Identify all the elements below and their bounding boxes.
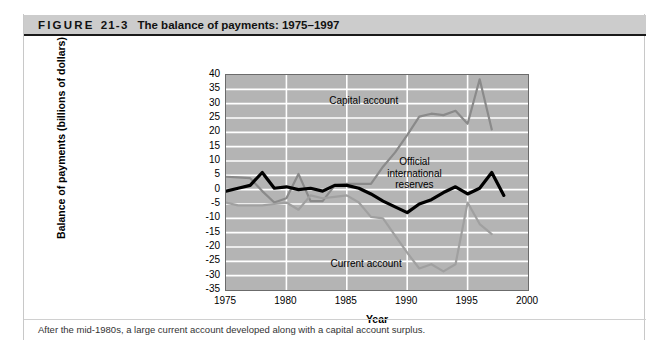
figure-container: FIGURE21-3The balance of payments: 1975–… bbox=[23, 14, 645, 340]
x-tick-label: 1995 bbox=[445, 295, 489, 306]
figure-header-bar: FIGURE21-3The balance of payments: 1975–… bbox=[24, 15, 646, 36]
chart-svg: Capital accountOfficialinternationalrese… bbox=[226, 75, 528, 290]
x-tick-label: 1980 bbox=[263, 295, 307, 306]
annotation-line: international bbox=[387, 168, 441, 179]
y-tick-label: 0 bbox=[190, 184, 220, 194]
y-tick-label: -30 bbox=[190, 270, 220, 280]
plot-outer: 4035302520151050-5-10-15-20-25-30-35 Cap… bbox=[202, 37, 522, 312]
figure-number: 21-3 bbox=[101, 19, 129, 31]
y-tick-label: 15 bbox=[190, 141, 220, 151]
annotation-line: reserves bbox=[395, 179, 433, 190]
annotation-capital-account: Capital account bbox=[329, 95, 398, 106]
x-tick-label: 2000 bbox=[505, 295, 549, 306]
y-tick-label: -20 bbox=[190, 241, 220, 251]
x-tick-label: 1990 bbox=[384, 295, 428, 306]
x-tick-label: 1975 bbox=[203, 295, 247, 306]
y-tick-label: -5 bbox=[190, 198, 220, 208]
figure-caption: After the mid-1980s, a large current acc… bbox=[38, 324, 638, 335]
chart: Balance of payments (billions of dollars… bbox=[24, 37, 646, 312]
series-line-official-international-reserves bbox=[226, 172, 504, 212]
y-tick-label: 20 bbox=[190, 126, 220, 136]
y-tick-label: 5 bbox=[190, 169, 220, 179]
y-tick-label: 10 bbox=[190, 155, 220, 165]
y-tick-label: -35 bbox=[190, 284, 220, 294]
x-tick-label: 1985 bbox=[324, 295, 368, 306]
y-tick-label: 35 bbox=[190, 83, 220, 93]
y-tick-label: -15 bbox=[190, 227, 220, 237]
annotation-line: Current account bbox=[331, 258, 402, 269]
plot-area: Capital accountOfficialinternationalrese… bbox=[225, 74, 529, 291]
annotation-line: Official bbox=[399, 156, 429, 167]
y-axis-label: Balance of payments (billions of dollars… bbox=[55, 28, 67, 248]
y-tick-label: 30 bbox=[190, 98, 220, 108]
caption-divider bbox=[24, 319, 646, 320]
y-tick-label: 40 bbox=[190, 69, 220, 79]
figure-header-text: FIGURE21-3The balance of payments: 1975–… bbox=[24, 19, 339, 31]
annotation-current-account: Current account bbox=[331, 258, 402, 269]
y-tick-label: -10 bbox=[190, 212, 220, 222]
figure-title: The balance of payments: 1975–1997 bbox=[137, 19, 339, 31]
annotation-line: Capital account bbox=[329, 95, 398, 106]
y-tick-label: -25 bbox=[190, 255, 220, 265]
y-tick-label: 25 bbox=[190, 112, 220, 122]
